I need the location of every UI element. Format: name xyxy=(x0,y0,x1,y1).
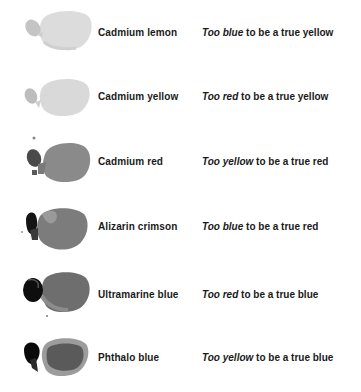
description-emphasis: Too blue xyxy=(202,221,243,232)
paint-description: Too blue to be a true red xyxy=(202,221,318,232)
description-emphasis: Too red xyxy=(202,91,238,102)
description-rest: to be a true red xyxy=(253,156,328,167)
paint-row-ultramarine-blue: Ultramarine blue Too red to be a true bl… xyxy=(0,268,361,328)
paint-name: Cadmium red xyxy=(98,156,163,167)
paint-swatch-icon xyxy=(16,332,94,388)
paint-row-cadmium-yellow: Cadmium yellow Too red to be a true yell… xyxy=(0,70,361,130)
paint-swatch-icon xyxy=(16,70,94,126)
paint-description: Too red to be a true blue xyxy=(202,289,318,300)
paint-description: Too yellow to be a true blue xyxy=(202,352,333,363)
paint-swatch-icon xyxy=(16,4,94,60)
paint-description: Too blue to be a true yellow xyxy=(202,27,333,38)
description-rest: to be a true yellow xyxy=(243,27,333,38)
description-rest: to be a true blue xyxy=(253,352,333,363)
description-emphasis: Too yellow xyxy=(202,352,253,363)
paint-name: Cadmium lemon xyxy=(98,27,177,38)
description-emphasis: Too blue xyxy=(202,27,243,38)
paint-name: Ultramarine blue xyxy=(98,289,179,300)
paint-swatch-icon xyxy=(16,268,94,324)
paint-name: Cadmium yellow xyxy=(98,91,178,102)
description-emphasis: Too yellow xyxy=(202,156,253,167)
paint-row-alizarin-crimson: Alizarin crimson Too blue to be a true r… xyxy=(0,200,361,260)
paint-row-cadmium-red: Cadmium red Too yellow to be a true red xyxy=(0,134,361,194)
paint-row-phthalo-blue: Phthalo blue Too yellow to be a true blu… xyxy=(0,332,361,392)
description-emphasis: Too red xyxy=(202,289,238,300)
description-rest: to be a true red xyxy=(243,221,318,232)
paint-description: Too red to be a true yellow xyxy=(202,91,328,102)
paint-name: Phthalo blue xyxy=(98,352,159,363)
paint-swatch-icon xyxy=(16,134,94,190)
paint-name: Alizarin crimson xyxy=(98,221,177,232)
paint-description: Too yellow to be a true red xyxy=(202,156,328,167)
description-rest: to be a true blue xyxy=(238,289,318,300)
description-rest: to be a true yellow xyxy=(238,91,328,102)
paint-swatch-icon xyxy=(16,200,94,256)
paint-row-cadmium-lemon: Cadmium lemon Too blue to be a true yell… xyxy=(0,4,361,64)
